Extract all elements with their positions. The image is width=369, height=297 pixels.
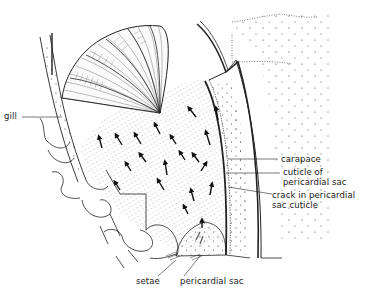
label-crack-line1: crack in pericardial <box>272 191 355 200</box>
label-crack-line2: sac cuticle <box>272 201 318 210</box>
body-wall-left <box>40 33 86 182</box>
pericardial-sac-leader <box>184 256 200 276</box>
label-pericardial-sac: pericardial sac <box>180 277 244 286</box>
label-gill: gill <box>4 112 17 121</box>
label-setae: setae <box>136 277 160 286</box>
label-cuticle-line2: pericardial sac <box>283 178 347 187</box>
label-carapace: carapace <box>281 155 321 164</box>
gill <box>62 26 168 113</box>
setae-leader <box>158 260 176 276</box>
label-cuticle-line1: cuticle of <box>283 168 323 177</box>
diagram-drawing <box>0 0 369 297</box>
diagram: gill carapace cuticle of pericardial sac… <box>0 0 369 297</box>
